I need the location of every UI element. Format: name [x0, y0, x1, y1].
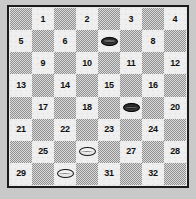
square-unplayable: [120, 30, 142, 52]
square-unplayable: [76, 163, 98, 185]
square-occupied[interactable]: [120, 97, 142, 119]
square-unplayable: [76, 74, 98, 96]
square-number-label: 14: [60, 81, 70, 90]
square-22[interactable]: 22: [54, 119, 76, 141]
square-unplayable: [142, 97, 164, 119]
square-unplayable: [54, 97, 76, 119]
square-unplayable: [10, 52, 32, 74]
square-number-label: 28: [170, 147, 180, 156]
square-occupied[interactable]: [98, 30, 120, 52]
square-number-label: 25: [38, 147, 48, 156]
square-number-label: 4: [173, 15, 178, 24]
square-number-label: 22: [60, 125, 70, 134]
square-unplayable: [54, 8, 76, 30]
square-17[interactable]: 17: [32, 97, 54, 119]
square-23[interactable]: 23: [98, 119, 120, 141]
square-unplayable: [32, 163, 54, 185]
square-unplayable: [76, 30, 98, 52]
square-unplayable: [32, 74, 54, 96]
square-27[interactable]: 27: [120, 141, 142, 163]
square-32[interactable]: 32: [142, 163, 164, 185]
square-number-label: 16: [148, 81, 158, 90]
dark-checker-icon[interactable]: [101, 37, 118, 46]
square-unplayable: [98, 97, 120, 119]
square-unplayable: [120, 163, 142, 185]
square-24[interactable]: 24: [142, 119, 164, 141]
square-unplayable: [142, 8, 164, 30]
square-6[interactable]: 6: [54, 30, 76, 52]
square-unplayable: [164, 163, 186, 185]
square-unplayable: [98, 52, 120, 74]
light-checker-icon[interactable]: [79, 147, 96, 156]
square-31[interactable]: 31: [98, 163, 120, 185]
light-checker-icon[interactable]: [57, 169, 74, 178]
square-unplayable: [164, 119, 186, 141]
square-number-label: 6: [63, 37, 68, 46]
square-unplayable: [142, 141, 164, 163]
square-13[interactable]: 13: [10, 74, 32, 96]
draughts-board-grid[interactable]: 1234568910111213141516171820212223242527…: [10, 8, 186, 185]
square-number-label: 10: [82, 59, 92, 68]
square-3[interactable]: 3: [120, 8, 142, 30]
square-number-label: 9: [41, 59, 46, 68]
square-number-label: 3: [129, 15, 134, 24]
square-9[interactable]: 9: [32, 52, 54, 74]
draughts-board-frame: 1234568910111213141516171820212223242527…: [7, 5, 189, 188]
square-occupied[interactable]: [76, 141, 98, 163]
square-number-label: 23: [104, 125, 114, 134]
square-12[interactable]: 12: [164, 52, 186, 74]
square-unplayable: [120, 74, 142, 96]
square-number-label: 21: [16, 125, 26, 134]
square-occupied[interactable]: [54, 163, 76, 185]
square-unplayable: [10, 141, 32, 163]
square-unplayable: [32, 119, 54, 141]
square-unplayable: [164, 74, 186, 96]
square-unplayable: [164, 30, 186, 52]
square-unplayable: [76, 119, 98, 141]
square-unplayable: [98, 8, 120, 30]
square-number-label: 31: [104, 169, 114, 178]
square-number-label: 8: [151, 37, 156, 46]
square-21[interactable]: 21: [10, 119, 32, 141]
square-number-label: 29: [16, 169, 26, 178]
square-1[interactable]: 1: [32, 8, 54, 30]
square-number-label: 2: [85, 15, 90, 24]
square-10[interactable]: 10: [76, 52, 98, 74]
square-number-label: 20: [170, 103, 180, 112]
square-unplayable: [120, 119, 142, 141]
square-29[interactable]: 29: [10, 163, 32, 185]
square-15[interactable]: 15: [98, 74, 120, 96]
square-28[interactable]: 28: [164, 141, 186, 163]
square-number-label: 13: [16, 81, 26, 90]
square-number-label: 15: [104, 81, 114, 90]
square-18[interactable]: 18: [76, 97, 98, 119]
square-number-label: 24: [148, 125, 158, 134]
square-unplayable: [10, 97, 32, 119]
square-4[interactable]: 4: [164, 8, 186, 30]
square-number-label: 11: [126, 59, 135, 68]
square-number-label: 17: [38, 103, 48, 112]
square-14[interactable]: 14: [54, 74, 76, 96]
dark-checker-icon[interactable]: [123, 103, 140, 112]
square-number-label: 5: [19, 37, 24, 46]
square-number-label: 12: [170, 59, 180, 68]
square-number-label: 18: [82, 103, 92, 112]
square-unplayable: [10, 8, 32, 30]
square-number-label: 32: [148, 169, 158, 178]
square-25[interactable]: 25: [32, 141, 54, 163]
square-16[interactable]: 16: [142, 74, 164, 96]
square-unplayable: [54, 52, 76, 74]
square-11[interactable]: 11: [120, 52, 142, 74]
square-number-label: 27: [126, 147, 136, 156]
square-5[interactable]: 5: [10, 30, 32, 52]
square-20[interactable]: 20: [164, 97, 186, 119]
square-unplayable: [142, 52, 164, 74]
square-number-label: 1: [41, 15, 46, 24]
square-unplayable: [98, 141, 120, 163]
square-unplayable: [54, 141, 76, 163]
square-8[interactable]: 8: [142, 30, 164, 52]
square-unplayable: [32, 30, 54, 52]
square-2[interactable]: 2: [76, 8, 98, 30]
